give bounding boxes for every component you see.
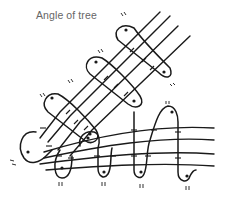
wrap-loop-3 [134,106,196,181]
loop-markers [10,12,189,190]
horizontal-cord-bundle [40,127,214,170]
wrap-loop-top [116,26,171,77]
lashing-diagram [0,0,234,208]
wrap-loop-middle [86,57,141,107]
